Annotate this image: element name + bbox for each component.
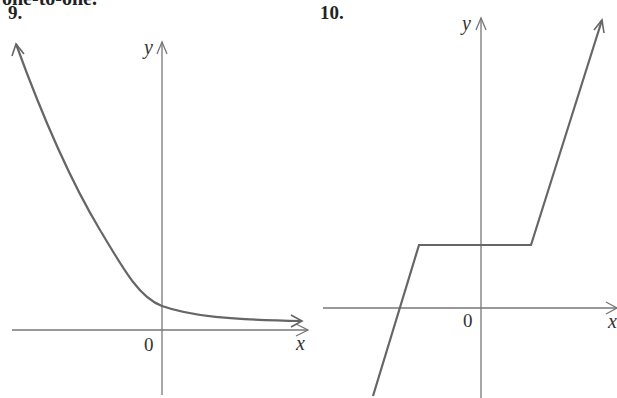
graph-10-axes bbox=[323, 18, 617, 398]
graph-9-curve bbox=[12, 44, 302, 327]
graphs-canvas bbox=[0, 0, 617, 398]
graph-9-axes bbox=[12, 42, 308, 395]
graph-10-curve bbox=[373, 20, 604, 396]
